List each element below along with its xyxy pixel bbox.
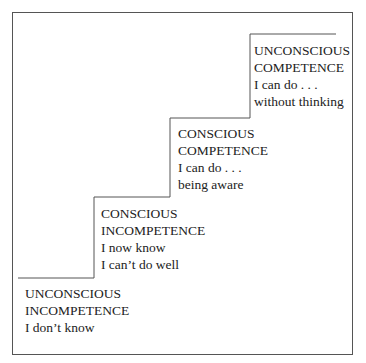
stage-title: CONSCIOUS [101,205,205,222]
stage-title: UNCONSCIOUS [254,42,350,59]
stage-description: I can do . . . [254,76,350,93]
stage-title: COMPETENCE [178,142,268,159]
stage-unconscious-competence: UNCONSCIOUS COMPETENCE I can do . . . wi… [254,42,350,110]
stage-description: being aware [178,176,268,193]
stage-description: I can’t do well [101,256,205,273]
stage-title: UNCONSCIOUS [25,285,129,302]
stage-title: COMPETENCE [254,59,350,76]
stage-title: INCOMPETENCE [25,302,129,319]
stage-description: I now know [101,239,205,256]
stage-unconscious-incompetence: UNCONSCIOUS INCOMPETENCE I don’t know [25,285,129,336]
stage-conscious-competence: CONSCIOUS COMPETENCE I can do . . . bein… [178,125,268,193]
stage-description: I can do . . . [178,159,268,176]
stage-conscious-incompetence: CONSCIOUS INCOMPETENCE I now know I can’… [101,205,205,273]
stage-description: I don’t know [25,319,129,336]
stage-description: without thinking [254,93,350,110]
stage-title: CONSCIOUS [178,125,268,142]
stage-title: INCOMPETENCE [101,222,205,239]
